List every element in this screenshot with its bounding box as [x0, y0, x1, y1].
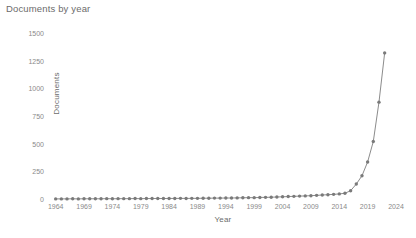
x-tick-label: 1964: [48, 203, 64, 210]
x-tick-label: 1984: [161, 203, 177, 210]
data-point-marker: [82, 197, 85, 200]
data-point-marker: [332, 193, 335, 196]
data-point-marker: [298, 194, 301, 197]
data-point-marker: [247, 196, 250, 199]
y-tick-label: 0: [40, 196, 44, 203]
data-point-marker: [315, 194, 318, 197]
data-point-marker: [235, 196, 238, 199]
data-point-marker: [377, 100, 380, 103]
data-point-marker: [54, 197, 57, 200]
data-point-marker: [133, 197, 136, 200]
data-point-marker: [281, 195, 284, 198]
data-point-marker: [309, 194, 312, 197]
data-point-marker: [88, 197, 91, 200]
y-tick-label: 1000: [28, 85, 44, 92]
data-point-marker: [173, 197, 176, 200]
data-point-marker: [162, 197, 165, 200]
y-tick-label: 1250: [28, 57, 44, 64]
data-point-marker: [71, 197, 74, 200]
data-point-marker: [184, 197, 187, 200]
data-point-marker: [264, 196, 267, 199]
data-point-marker: [366, 160, 369, 163]
data-point-marker: [230, 196, 233, 199]
data-point-marker: [105, 197, 108, 200]
data-point-marker: [349, 189, 352, 192]
data-point-marker: [179, 197, 182, 200]
x-tick-label: 1989: [190, 203, 206, 210]
x-tick-label: 2019: [360, 203, 376, 210]
data-point-marker: [218, 196, 221, 199]
data-point-marker: [355, 182, 358, 185]
data-point-marker: [326, 193, 329, 196]
x-axis-label: Year: [50, 215, 396, 224]
data-point-marker: [241, 196, 244, 199]
plot-area: 0250500750100012501500 19641969197419791…: [50, 33, 396, 199]
x-tick-label: 1994: [218, 203, 234, 210]
data-point-marker: [116, 197, 119, 200]
data-point-marker: [207, 197, 210, 200]
data-point-marker: [60, 197, 63, 200]
data-point-marker: [150, 197, 153, 200]
data-point-marker: [139, 197, 142, 200]
x-tick-label: 1969: [76, 203, 92, 210]
x-tick-label: 1979: [133, 203, 149, 210]
x-tick-label: 2014: [331, 203, 347, 210]
data-point-marker: [122, 197, 125, 200]
line-series: [50, 33, 396, 199]
data-point-marker: [275, 195, 278, 198]
data-point-marker: [196, 197, 199, 200]
data-point-marker: [213, 196, 216, 199]
chart-title: Documents by year: [6, 3, 90, 14]
series-line: [56, 53, 385, 199]
x-tick-label: 2004: [275, 203, 291, 210]
data-point-marker: [287, 195, 290, 198]
data-point-marker: [372, 140, 375, 143]
y-tick-label: 750: [32, 113, 44, 120]
chart-container: Documents by year 0250500750100012501500…: [0, 0, 416, 238]
data-point-marker: [99, 197, 102, 200]
data-point-marker: [253, 196, 256, 199]
data-point-marker: [111, 197, 114, 200]
data-point-marker: [77, 197, 80, 200]
x-tick-label: 1974: [105, 203, 121, 210]
y-tick-label: 1500: [28, 30, 44, 37]
data-point-marker: [145, 197, 148, 200]
data-point-marker: [321, 193, 324, 196]
data-point-marker: [190, 197, 193, 200]
data-point-marker: [383, 51, 386, 54]
x-tick-label: 2024: [388, 203, 404, 210]
data-point-marker: [156, 197, 159, 200]
data-point-marker: [65, 197, 68, 200]
y-tick-label: 500: [32, 140, 44, 147]
y-tick-label: 250: [32, 168, 44, 175]
x-tick-label: 2009: [303, 203, 319, 210]
data-point-marker: [167, 197, 170, 200]
data-point-marker: [338, 192, 341, 195]
data-point-marker: [201, 197, 204, 200]
data-point-marker: [292, 195, 295, 198]
x-tick-label: 1999: [246, 203, 262, 210]
data-point-marker: [258, 196, 261, 199]
y-axis-label: Documents: [52, 54, 61, 134]
data-point-marker: [224, 196, 227, 199]
data-point-marker: [270, 196, 273, 199]
data-point-marker: [128, 197, 131, 200]
data-point-marker: [94, 197, 97, 200]
data-point-marker: [304, 194, 307, 197]
data-point-marker: [360, 174, 363, 177]
data-point-marker: [343, 192, 346, 195]
